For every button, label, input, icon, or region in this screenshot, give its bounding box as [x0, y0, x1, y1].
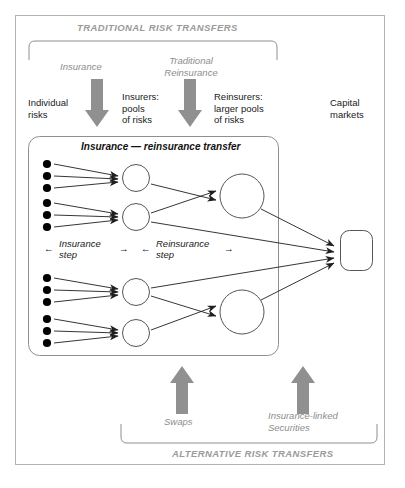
risk-links-group-1 — [54, 164, 118, 188]
risk-links-group-3 — [54, 278, 118, 302]
reinsurance-step-arrow-right: → — [224, 243, 234, 254]
column-label-insurers: Insurers: pools of risks — [122, 91, 159, 126]
risk-dot — [43, 315, 51, 323]
inner-box-title: Insurance — reinsurance transfer — [81, 141, 241, 153]
reinsurer-pool-node — [220, 174, 264, 218]
ils-flow-arrow — [291, 366, 315, 414]
risk-dot — [43, 274, 51, 282]
risk-dot — [43, 298, 51, 306]
top-brace — [29, 41, 277, 60]
risk-dots-group-1 — [43, 160, 51, 192]
risk-dot — [43, 223, 51, 231]
alternative-risk-transfers-title: ALTERNATIVE RISK TRANSFERS — [172, 448, 334, 460]
swaps-flow-arrow — [170, 366, 194, 414]
risk-dot — [43, 199, 51, 207]
risk-dots-group-4 — [43, 315, 51, 347]
flow-label-traditional-reinsurance: Traditional Reinsurance — [155, 55, 227, 78]
risk-dot — [43, 286, 51, 294]
column-label-individual-risks: Individual risks — [28, 97, 68, 120]
risk-dot — [43, 339, 51, 347]
insurance-flow-arrow — [85, 79, 109, 127]
risk-dot — [43, 327, 51, 335]
risk-dot — [43, 160, 51, 168]
risk-links-group-4 — [54, 319, 118, 343]
risk-dots-group-3 — [43, 274, 51, 306]
insurance-step-arrow-left: ← — [44, 243, 54, 254]
bottom-brace — [121, 424, 377, 443]
risk-dots-group-2 — [43, 199, 51, 231]
flow-label-insurance: Insurance — [60, 61, 102, 73]
insurer-pool-node — [123, 204, 150, 231]
risk-dot — [43, 211, 51, 219]
column-label-reinsurers: Reinsurers: larger pools of risks — [214, 91, 264, 126]
risk-dot — [43, 172, 51, 180]
risk-links-group-2 — [54, 203, 118, 227]
insurer-pool-node — [123, 165, 150, 192]
reinsurance-step-label: Reinsurance step — [156, 238, 209, 260]
flow-label-swaps: Swaps — [164, 416, 193, 428]
flow-label-insurance-linked-securities: Insurance-linked Securities — [268, 410, 338, 433]
insurance-step-arrow-right: → — [119, 243, 129, 254]
risk-dot — [43, 184, 51, 192]
traditional-reinsurance-flow-arrow — [178, 79, 202, 127]
capital-markets-node — [341, 231, 373, 271]
insurance-step-label: Insurance step — [59, 238, 101, 260]
insurer-pool-node — [123, 279, 150, 306]
column-label-capital-markets: Capital markets — [330, 97, 364, 120]
traditional-risk-transfers-title: TRADITIONAL RISK TRANSFERS — [77, 22, 238, 34]
reinsurer-pool-node — [220, 290, 264, 334]
reinsurance-step-arrow-left: ← — [141, 243, 151, 254]
insurer-pool-node — [123, 320, 150, 347]
diagram-canvas: TRADITIONAL RISK TRANSFERS Insurance Tra… — [0, 0, 405, 488]
